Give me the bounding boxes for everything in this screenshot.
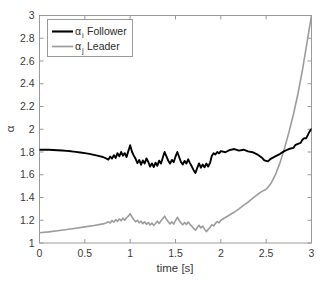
alpha-vs-time-line-chart: 00.511.522.53 11.21.41.61.822.22.42.62.8…: [0, 0, 329, 281]
y-tick-label: 2.2: [20, 100, 35, 112]
chart-legend[interactable]: α i Follower α j Leader: [48, 20, 133, 57]
legend-label-follower-text: Follower: [87, 25, 127, 37]
x-axis-tick-labels: 00.511.522.53: [37, 247, 315, 259]
y-tick-label: 2.6: [20, 55, 35, 67]
x-tick-label: 3: [309, 247, 315, 259]
x-tick-label: 2.5: [259, 247, 274, 259]
x-tick-label: 2: [218, 247, 224, 259]
legend-label-leader-subscript: j: [81, 46, 84, 55]
x-tick-label: 1.5: [168, 247, 183, 259]
chart-figure: 00.511.522.53 11.21.41.61.822.22.42.62.8…: [0, 0, 329, 281]
y-tick-label: 1.2: [20, 214, 35, 226]
y-tick-label: 2.4: [20, 77, 35, 89]
y-tick-label: 1.8: [20, 146, 35, 158]
y-axis-label: α: [4, 125, 16, 132]
x-tick-label: 0.5: [78, 247, 93, 259]
y-tick-label: 1: [29, 237, 35, 249]
y-tick-label: 1.6: [20, 168, 35, 180]
x-tick-label: 0: [37, 247, 43, 259]
y-tick-label: 1.4: [20, 191, 35, 203]
y-tick-label: 3: [29, 9, 35, 21]
legend-label-follower-symbol: α: [75, 25, 81, 37]
y-tick-label: 2.8: [20, 32, 35, 44]
legend-label-leader-symbol: α: [75, 40, 81, 52]
y-tick-label: 2: [29, 123, 35, 135]
legend-label-leader-text: Leader: [87, 40, 120, 52]
x-tick-label: 1: [127, 247, 133, 259]
x-axis-label: time [s]: [156, 262, 193, 274]
